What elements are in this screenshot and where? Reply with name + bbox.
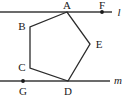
point-label-f: F — [99, 0, 105, 11]
vertex-label-e: E — [96, 38, 103, 50]
vertex-label-b: B — [18, 20, 25, 32]
line-label-l: l — [117, 6, 120, 18]
vertex-label-d: D — [64, 85, 72, 97]
geometry-figure-canvas: A B C D E F G l m — [0, 0, 129, 103]
geometry-figure: A B C D E F G l m — [0, 0, 129, 103]
polygon-abcde — [30, 12, 90, 81]
vertex-label-a: A — [63, 0, 71, 11]
point-label-g: G — [19, 85, 27, 97]
vertex-label-c: C — [18, 61, 25, 73]
point-g-dot — [21, 79, 25, 83]
line-label-m: m — [114, 74, 122, 86]
